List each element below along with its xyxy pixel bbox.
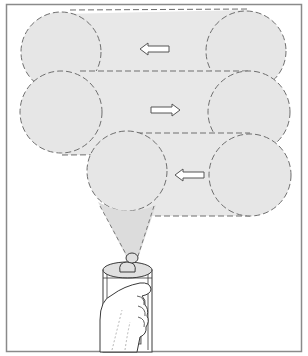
nozzle (126, 253, 138, 263)
spray-pattern-diagram (0, 0, 308, 356)
spray-circle (20, 71, 102, 153)
diagram-canvas (0, 0, 308, 356)
spray-circle (87, 131, 167, 211)
nozzle-cap (120, 262, 136, 272)
spray-circle (209, 134, 291, 216)
